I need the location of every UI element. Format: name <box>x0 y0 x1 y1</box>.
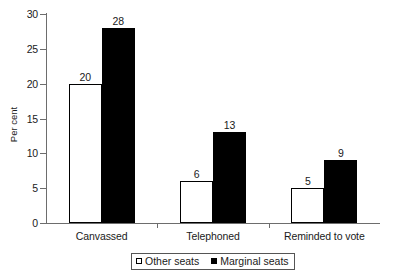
y-axis-tick-label: 25 <box>27 43 38 55</box>
x-axis-category-label: Canvassed <box>76 230 128 242</box>
filled-square-marker-icon <box>211 258 217 264</box>
x-axis-line <box>46 223 380 224</box>
bar-chart: Per cent 051015202530 202861359 Canvasse… <box>0 0 402 280</box>
x-axis-tick <box>269 223 270 228</box>
legend-label-marginal-seats: Marginal seats <box>220 256 288 267</box>
y-axis-tick-label: 15 <box>27 113 38 125</box>
plot-area: 202861359 <box>46 14 380 223</box>
y-axis-tick-label: 20 <box>27 78 38 90</box>
y-axis-tick-label: 5 <box>32 182 38 194</box>
y-axis-tick-label: 10 <box>27 147 38 159</box>
bar-group: 59 <box>46 14 380 223</box>
bar-value-label: 9 <box>338 147 344 159</box>
y-axis-tick-label: 30 <box>27 8 38 20</box>
y-axis-tick-label: 0 <box>32 217 38 229</box>
bar-other-seats: 5 <box>291 188 324 223</box>
y-axis-tick <box>40 223 46 224</box>
bar-marginal-seats: 9 <box>324 160 357 223</box>
x-axis-category-label: Telephoned <box>186 230 239 242</box>
bar-value-label: 5 <box>305 175 311 187</box>
legend-label-other-seats: Other seats <box>145 256 199 267</box>
chart-legend: Other seats Marginal seats <box>131 253 295 270</box>
legend-item-other-seats: Other seats <box>136 256 199 267</box>
x-axis-tick <box>157 223 158 228</box>
hollow-square-marker-icon <box>136 258 142 264</box>
y-axis-title: Per cent <box>8 95 19 155</box>
x-axis-category-label: Reminded to vote <box>284 230 365 242</box>
legend-item-marginal-seats: Marginal seats <box>211 256 288 267</box>
